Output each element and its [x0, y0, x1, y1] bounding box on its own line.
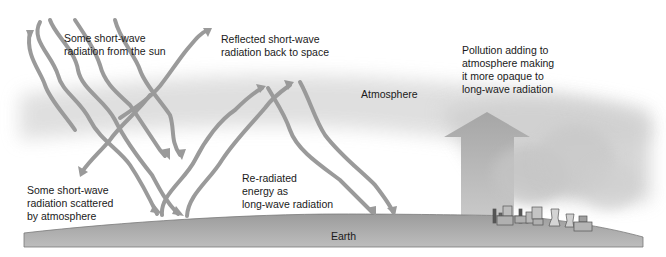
label-sun-radiation: Some short-wave radiation from the sun [64, 32, 166, 58]
label-pollution: Pollution adding to atmosphere making it… [462, 44, 554, 96]
label-reradiated-energy: Re-radiated energy as long-wave radiatio… [242, 172, 333, 211]
label-earth: Earth [331, 230, 356, 243]
label-scattered-radiation: Some short-wave radiation scattered by a… [27, 184, 113, 223]
label-reflected-radiation: Reflected short-wave radiation back to s… [221, 33, 329, 59]
label-atmosphere: Atmosphere [361, 88, 418, 101]
